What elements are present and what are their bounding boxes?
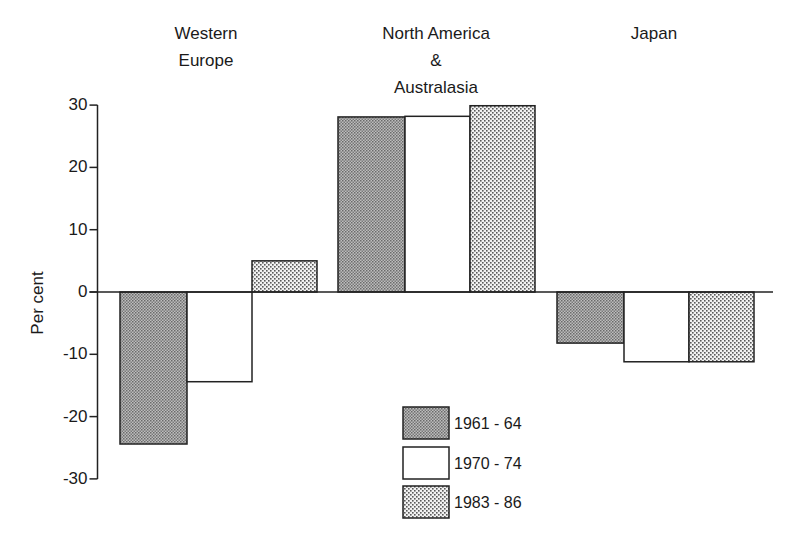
- y-tick-label: -30: [44, 470, 88, 487]
- y-tick-label: 30: [44, 96, 88, 113]
- legend-swatches: [403, 407, 449, 518]
- y-tick-label: -20: [44, 408, 88, 425]
- category-title-2: North America&Australasia: [382, 20, 490, 101]
- bar-2-1: [338, 117, 405, 292]
- legend-swatch-1: [403, 407, 449, 439]
- bar-3-3: [689, 292, 754, 362]
- bar-1-1: [120, 292, 187, 444]
- category-title-line: Australasia: [382, 74, 490, 101]
- y-tick-label: 10: [44, 221, 88, 238]
- category-title-line: Japan: [631, 20, 677, 47]
- y-tick-label: 20: [44, 158, 88, 175]
- legend-swatch-2: [403, 447, 449, 479]
- bar-3-1: [557, 292, 624, 343]
- category-title-line: North America: [382, 20, 490, 47]
- y-tick-label: 0: [44, 283, 88, 300]
- legend-swatch-3: [403, 486, 449, 518]
- y-axis-label: Per cent: [28, 271, 48, 335]
- bar-2-2: [405, 116, 470, 292]
- legend-label: 1983 - 86: [454, 495, 522, 511]
- y-tick-label: -10: [44, 345, 88, 362]
- category-title-3: Japan: [631, 20, 677, 47]
- category-title-1: WesternEurope: [175, 20, 238, 74]
- category-title-line: Western: [175, 20, 238, 47]
- legend-label: 1961 - 64: [454, 416, 522, 432]
- bar-2-3: [470, 106, 535, 292]
- bar-3-2: [624, 292, 689, 362]
- category-title-line: Europe: [175, 47, 238, 74]
- category-title-line: &: [382, 47, 490, 74]
- bar-1-3: [252, 261, 317, 292]
- bars: [120, 106, 754, 444]
- legend-label: 1970 - 74: [454, 456, 522, 472]
- bar-1-2: [187, 292, 252, 382]
